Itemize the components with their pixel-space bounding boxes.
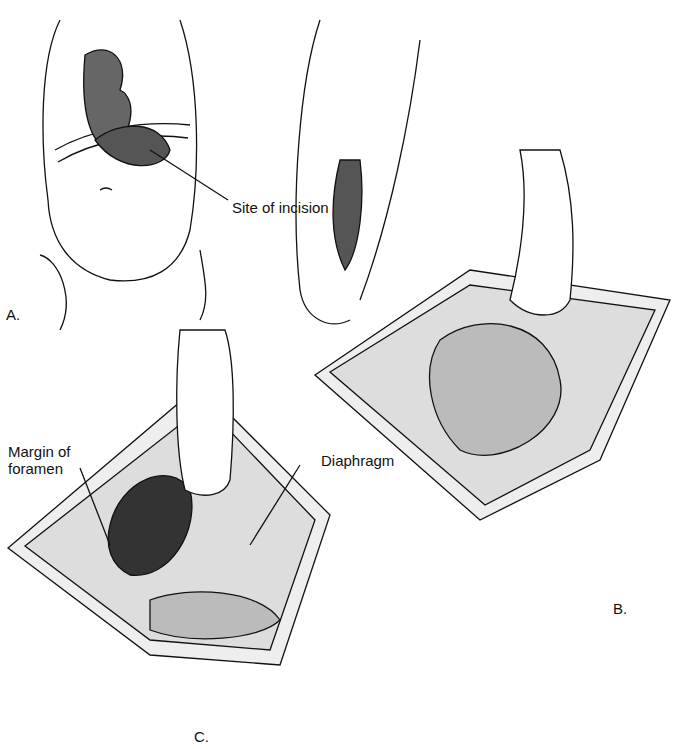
label-margin-of-foramen: Margin of foramen — [8, 443, 71, 477]
panel-label-a: A. — [6, 306, 20, 323]
panel-a-side-torso — [296, 20, 420, 324]
illustration-drawing — [0, 0, 681, 749]
panel-a-front-torso — [40, 20, 206, 330]
incision-pointer — [150, 150, 228, 200]
panel-c-open-abdomen — [8, 330, 330, 665]
label-diaphragm: Diaphragm — [321, 452, 394, 469]
panel-label-b: B. — [613, 600, 627, 617]
surgical-illustration: Site of incision A. B. C. Margin of fora… — [0, 0, 681, 749]
panel-label-c: C. — [194, 728, 209, 745]
label-site-of-incision: Site of incision — [232, 199, 329, 216]
